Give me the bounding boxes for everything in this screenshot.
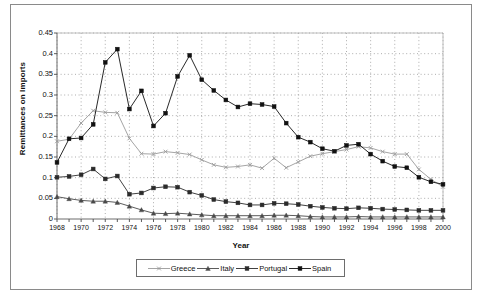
data-point-marker xyxy=(393,208,397,212)
data-point-marker xyxy=(164,185,168,189)
data-point-marker xyxy=(79,136,83,140)
data-point-marker xyxy=(164,111,168,115)
legend-label: Greece xyxy=(171,264,198,273)
y-tick-label: 0.45 xyxy=(13,28,53,37)
data-point-marker xyxy=(381,159,385,163)
data-point-marker xyxy=(417,208,421,212)
data-point-marker xyxy=(284,202,288,206)
legend-marker-square-icon xyxy=(236,264,258,273)
data-point-marker xyxy=(284,166,288,170)
data-point-marker xyxy=(369,206,373,210)
data-point-marker xyxy=(441,208,445,212)
data-point-marker xyxy=(429,208,433,212)
data-point-marker xyxy=(127,192,131,196)
data-point-marker xyxy=(91,167,95,171)
data-point-marker xyxy=(115,174,119,178)
data-point-marker xyxy=(200,78,204,82)
data-point-marker xyxy=(333,206,337,210)
legend-marker-triangle-icon xyxy=(197,264,219,273)
data-point-marker xyxy=(188,53,192,57)
legend-marker-x-icon xyxy=(148,264,170,273)
data-point-marker xyxy=(284,121,288,125)
data-point-marker xyxy=(405,208,409,212)
data-point-marker xyxy=(272,201,276,205)
data-point-marker xyxy=(417,175,421,179)
data-point-marker xyxy=(140,89,144,93)
data-point-marker xyxy=(115,47,119,51)
data-point-marker xyxy=(345,144,349,148)
data-point-marker xyxy=(79,173,83,177)
legend-label: Spain xyxy=(312,264,333,273)
data-point-marker xyxy=(236,105,240,109)
y-tick-label: 0.25 xyxy=(13,111,53,120)
data-point-marker xyxy=(381,207,385,211)
data-point-marker xyxy=(357,142,361,146)
y-tick-label: 0.4 xyxy=(13,49,53,58)
data-point-marker xyxy=(55,160,59,164)
data-point-marker xyxy=(103,60,107,64)
data-point-marker xyxy=(212,198,216,202)
legend-entry-italy: Italy xyxy=(197,264,236,273)
data-point-marker xyxy=(333,149,337,153)
legend-marker-square-icon xyxy=(289,264,311,273)
data-point-marker xyxy=(320,147,324,151)
data-point-marker xyxy=(320,206,324,210)
data-point-marker xyxy=(176,75,180,79)
data-point-marker xyxy=(308,140,312,144)
data-point-marker xyxy=(200,194,204,198)
legend-label: Portugal xyxy=(259,264,289,273)
data-point-marker xyxy=(79,121,83,125)
data-point-marker xyxy=(298,266,302,270)
data-point-marker xyxy=(212,89,216,93)
data-point-marker xyxy=(248,102,252,106)
data-point-marker xyxy=(441,182,445,186)
data-point-marker xyxy=(296,203,300,207)
y-tick-label: 0 xyxy=(13,214,53,223)
data-point-marker xyxy=(127,107,131,111)
data-point-marker xyxy=(127,137,131,141)
data-point-marker xyxy=(200,158,204,162)
data-point-marker xyxy=(140,191,144,195)
data-point-marker xyxy=(152,186,156,190)
data-point-marker xyxy=(357,206,361,210)
data-point-marker xyxy=(152,124,156,128)
legend-label: Italy xyxy=(220,264,236,273)
y-tick-label: 0.15 xyxy=(13,152,53,161)
data-point-marker xyxy=(67,137,71,141)
data-point-marker xyxy=(260,103,264,107)
plot-area xyxy=(0,0,482,295)
data-point-marker xyxy=(345,207,349,211)
data-point-marker xyxy=(245,266,249,270)
data-point-marker xyxy=(224,200,228,204)
data-point-marker xyxy=(55,175,59,179)
legend-entry-spain: Spain xyxy=(289,264,333,273)
legend-entry-portugal: Portugal xyxy=(236,264,289,273)
data-point-marker xyxy=(405,166,409,170)
y-tick-label: 0.05 xyxy=(13,193,53,202)
legend-entry-greece: Greece xyxy=(148,264,198,273)
y-tick-label: 0.3 xyxy=(13,90,53,99)
data-point-marker xyxy=(103,177,107,181)
data-point-marker xyxy=(260,203,264,207)
y-tick-label: 0.35 xyxy=(13,69,53,78)
y-tick-label: 0.2 xyxy=(13,131,53,140)
data-point-marker xyxy=(296,135,300,139)
data-point-marker xyxy=(224,98,228,102)
chart-legend: GreeceItalyPortugalSpain xyxy=(136,259,345,277)
data-point-marker xyxy=(188,190,192,194)
data-point-marker xyxy=(176,185,180,189)
data-point-marker xyxy=(369,152,373,156)
data-point-marker xyxy=(236,201,240,205)
figure-panel-a: a. Remittances on Imports Year 00.050.10… xyxy=(0,0,482,295)
y-tick-label: 0.1 xyxy=(13,173,53,182)
data-point-marker xyxy=(91,122,95,126)
data-point-marker xyxy=(429,180,433,184)
data-point-marker xyxy=(308,204,312,208)
data-point-marker xyxy=(393,165,397,169)
data-point-marker xyxy=(248,203,252,207)
data-point-marker xyxy=(67,175,71,179)
data-point-marker xyxy=(272,105,276,109)
x-tick-label: 2000 xyxy=(429,224,457,231)
